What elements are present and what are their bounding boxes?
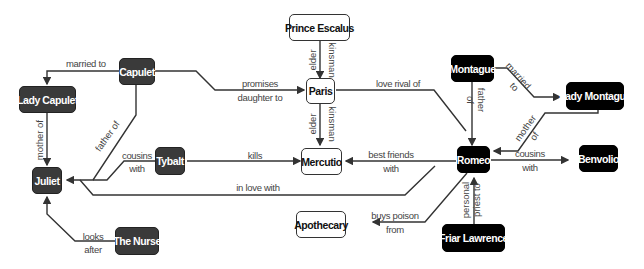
node-lady-montague[interactable]: Lady Montague: [566, 82, 624, 110]
label-looks: looks: [78, 231, 108, 242]
label-with-2: with: [366, 163, 416, 174]
label-personal: personal: [460, 182, 471, 218]
node-paris[interactable]: Paris: [306, 78, 335, 104]
label-love-rival-of: love rival of: [368, 78, 428, 89]
label-best-friends: best friends: [366, 149, 416, 160]
label-with-3: with: [510, 162, 550, 173]
node-romeo[interactable]: Romeo: [457, 146, 490, 173]
label-father: father: [476, 88, 487, 112]
node-juliet[interactable]: Juliet: [32, 167, 62, 194]
label-father-of: father of: [93, 118, 122, 153]
label-kills: kills: [240, 150, 270, 161]
label-with: with: [120, 163, 154, 174]
node-lady-capulet[interactable]: Lady Capulet: [19, 86, 76, 113]
label-in-love-with: in love with: [228, 182, 288, 193]
label-cousins: cousins: [120, 150, 154, 161]
relationship-diagram: mother of father of elder kinsman elder …: [0, 0, 644, 269]
node-benvolio[interactable]: Benvolio: [579, 145, 618, 172]
edge-capulet-married-lady-capulet: [47, 71, 119, 84]
label-after: after: [78, 244, 108, 255]
label-kinsman-1: kinsman: [327, 42, 338, 77]
node-tybalt[interactable]: Tybalt: [155, 147, 185, 175]
node-apothecary[interactable]: Apothecary: [296, 211, 346, 238]
label-married-to: married to: [66, 58, 106, 69]
node-the-nurse[interactable]: The Nurse: [115, 227, 159, 255]
node-friar-lawrence[interactable]: Friar Lawrence: [442, 224, 505, 252]
node-capulet[interactable]: Capulet: [119, 58, 155, 85]
label-mother-of: mother of: [34, 120, 45, 160]
label-kinsman-2: kinsman: [327, 106, 338, 141]
label-promises: promises: [235, 78, 285, 89]
label-elder-2: elder: [307, 113, 318, 134]
label-priest-to: priest to: [471, 183, 482, 217]
node-montague[interactable]: Montague: [451, 55, 494, 82]
node-mercutio[interactable]: Mercutio: [301, 148, 342, 175]
edge-paris-rival-romeo: [336, 90, 466, 131]
label-daughter-to: daughter to: [230, 92, 290, 103]
label-elder-1: elder: [307, 49, 318, 70]
node-prince-escalus[interactable]: Prince Escalus: [289, 14, 350, 41]
label-buys-poison: buys poison: [370, 210, 420, 221]
label-cousins-2: cousins: [510, 148, 550, 159]
label-of: of: [465, 96, 476, 104]
label-from: from: [370, 224, 420, 235]
